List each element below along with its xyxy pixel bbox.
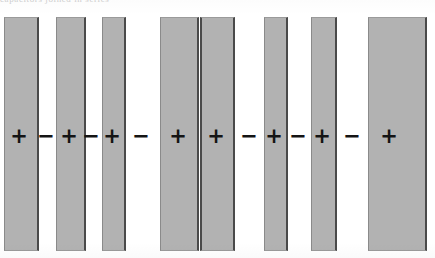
plate-5-plus-sign: + [207, 126, 225, 147]
gap-1-minus-sign: − [37, 126, 55, 147]
plate-4-plus-sign: + [169, 126, 187, 147]
gap-6-minus-sign: − [343, 126, 361, 147]
gap-4-minus-sign: − [240, 126, 258, 147]
plate-1-plus-sign: + [10, 126, 28, 147]
plate-6-plus-sign: + [265, 126, 283, 147]
gap-3-minus-sign: − [132, 126, 150, 147]
clipped-caption-text: capacitors joined in series [0, 0, 435, 5]
plate-7-plus-sign: + [313, 126, 331, 147]
plate-3-plus-sign: + [103, 126, 121, 147]
series-capacitor-plates-figure: capacitors joined in series ++++++++−−−−… [0, 0, 435, 258]
plate-2-plus-sign: + [60, 126, 78, 147]
plate-8-plus-sign: + [380, 126, 398, 147]
gap-5-minus-sign: − [289, 126, 307, 147]
gap-2-minus-sign: − [82, 126, 100, 147]
